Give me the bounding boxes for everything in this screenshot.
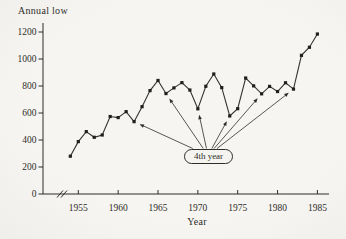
annotation-arrow xyxy=(200,118,207,149)
data-point xyxy=(188,88,191,91)
data-point xyxy=(101,133,104,136)
data-point xyxy=(212,72,215,75)
annotation-arrow xyxy=(142,125,192,148)
data-point xyxy=(85,130,88,133)
data-point xyxy=(140,105,143,108)
y-tick-label: 800 xyxy=(22,81,37,91)
data-point xyxy=(268,85,271,88)
annotation-arrowhead xyxy=(140,124,145,128)
annotation-arrowhead xyxy=(198,115,202,120)
data-point xyxy=(316,32,319,35)
data-point xyxy=(276,90,279,93)
y-tick-label: 0 xyxy=(32,189,37,199)
x-tick-label: 1985 xyxy=(308,203,327,213)
data-point xyxy=(156,79,159,82)
data-point xyxy=(204,85,207,88)
series-line xyxy=(70,34,317,156)
data-point xyxy=(172,86,175,89)
data-point xyxy=(125,110,128,113)
data-point xyxy=(109,115,112,118)
data-point xyxy=(93,136,96,139)
data-point xyxy=(220,86,223,89)
data-point xyxy=(252,84,255,87)
data-point xyxy=(132,120,135,123)
chart-title: Annual low xyxy=(18,5,68,16)
x-tick-label: 1960 xyxy=(109,203,128,213)
data-point xyxy=(228,114,231,117)
data-point xyxy=(148,89,151,92)
x-tick-label: 1970 xyxy=(188,203,207,213)
y-tick-label: 400 xyxy=(22,135,37,145)
data-point xyxy=(308,46,311,49)
annotation-arrowhead xyxy=(223,121,227,126)
data-point xyxy=(300,54,303,57)
annotation-arrow xyxy=(212,124,226,149)
y-tick-label: 200 xyxy=(22,162,37,172)
data-point xyxy=(180,81,183,84)
data-point xyxy=(236,107,239,110)
data-point xyxy=(292,88,295,91)
data-point xyxy=(164,92,167,95)
annotation-callout: 4th year xyxy=(184,149,233,164)
data-point xyxy=(196,107,199,110)
x-tick-label: 1965 xyxy=(149,203,168,213)
annotation-arrowhead xyxy=(169,99,173,104)
data-point xyxy=(244,76,247,79)
data-point xyxy=(69,155,72,158)
x-tick-label: 1975 xyxy=(228,203,247,213)
annotation-arrow xyxy=(214,101,256,149)
x-axis-title: Year xyxy=(187,216,207,227)
chart-canvas: 0200400600800100012001955196019651970197… xyxy=(0,0,346,239)
figure: 0200400600800100012001955196019651970197… xyxy=(0,0,346,239)
annotation-arrow xyxy=(217,95,286,149)
data-point xyxy=(284,81,287,84)
x-tick-label: 1980 xyxy=(268,203,287,213)
y-tick-label: 1200 xyxy=(18,27,37,37)
y-tick-label: 600 xyxy=(22,108,37,118)
x-tick-label: 1955 xyxy=(69,203,88,213)
data-point xyxy=(260,92,263,95)
data-point xyxy=(117,116,120,119)
data-point xyxy=(77,140,80,143)
y-tick-label: 1000 xyxy=(18,54,37,64)
